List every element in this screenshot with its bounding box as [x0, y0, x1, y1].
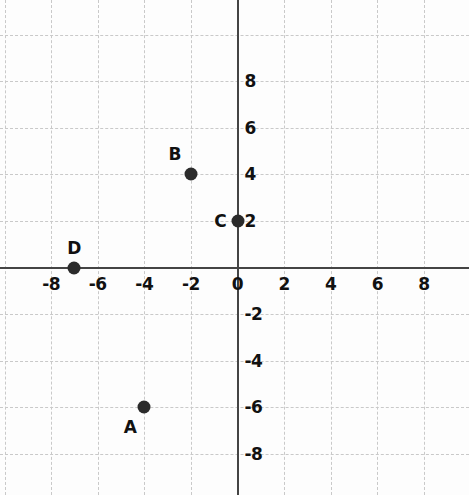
data-point-label-b: B [168, 144, 181, 164]
x-axis-tick-label: -4 [135, 274, 153, 294]
gridline-vertical [191, 0, 192, 495]
y-axis [237, 0, 239, 495]
x-axis-tick-label: 0 [232, 274, 243, 294]
x-axis-tick-label: 4 [325, 274, 336, 294]
x-axis-tick-label: 2 [278, 274, 289, 294]
gridline-horizontal [0, 361, 469, 362]
plot-area: -8-6-4-2024688642-2-4-6-8ABCD [0, 0, 469, 495]
y-axis-tick-label: 8 [245, 71, 256, 91]
gridline-vertical [144, 0, 145, 495]
y-axis-tick-label: -8 [245, 444, 263, 464]
gridline-vertical [424, 0, 425, 495]
data-point-d[interactable] [68, 261, 81, 274]
x-axis-tick-label: -6 [89, 274, 107, 294]
y-axis-tick-label: 4 [245, 164, 256, 184]
gridline-vertical [51, 0, 52, 495]
y-axis-tick-label: 6 [245, 118, 256, 138]
x-axis-tick-label: 8 [418, 274, 429, 294]
y-axis-tick-label: -4 [245, 351, 263, 371]
data-point-b[interactable] [184, 168, 197, 181]
gridline-vertical [5, 0, 6, 495]
gridline-vertical [284, 0, 285, 495]
y-axis-tick-label: -6 [245, 397, 263, 417]
x-axis-tick-label: 6 [372, 274, 383, 294]
data-point-label-c: C [214, 211, 226, 231]
gridline-horizontal [0, 174, 469, 175]
gridline-horizontal [0, 454, 469, 455]
coordinate-plane-figure: -8-6-4-2024688642-2-4-6-8ABCD [0, 0, 469, 495]
gridline-horizontal [0, 128, 469, 129]
gridline-vertical [331, 0, 332, 495]
data-point-label-a: A [124, 417, 137, 437]
x-axis-tick-label: -8 [42, 274, 60, 294]
gridline-vertical [98, 0, 99, 495]
x-axis-tick-label: -2 [182, 274, 200, 294]
gridline-horizontal [0, 407, 469, 408]
gridline-horizontal [0, 35, 469, 36]
y-axis-tick-label: -2 [245, 304, 263, 324]
data-point-label-d: D [67, 238, 81, 258]
gridline-horizontal [0, 314, 469, 315]
data-point-a[interactable] [138, 401, 151, 414]
data-point-c[interactable] [231, 214, 244, 227]
y-axis-tick-label: 2 [245, 211, 256, 231]
gridline-vertical [377, 0, 378, 495]
gridline-horizontal [0, 81, 469, 82]
